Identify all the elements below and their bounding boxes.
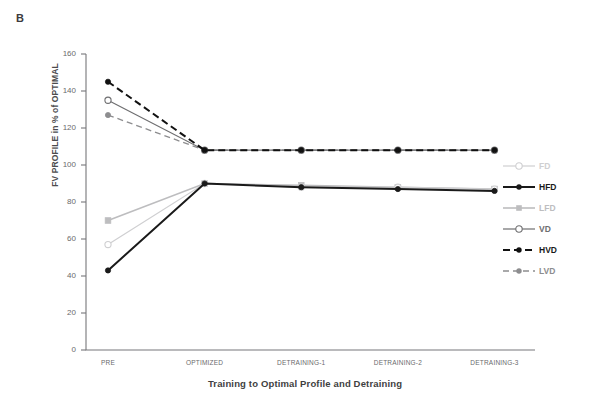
legend-label: FD	[536, 161, 550, 171]
legend-label: HVD	[536, 245, 557, 255]
legend-marker-filled-square	[502, 201, 536, 215]
data-point	[105, 218, 111, 224]
data-point	[395, 148, 400, 153]
legend-label: LVD	[536, 266, 555, 276]
y-axis-tick-label: 20	[36, 308, 76, 317]
legend-item-fd[interactable]: FD	[502, 155, 588, 176]
axis-spines	[86, 54, 535, 350]
x-axis-tick-label: DETRAINING-3	[435, 359, 555, 366]
legend-item-lfd[interactable]: LFD	[502, 197, 588, 218]
legend-marker-open-circle	[502, 222, 536, 236]
figure-panel: B FV PROFILE in % of OPTIMAL Training to…	[0, 0, 591, 403]
data-point	[105, 79, 110, 84]
series-hvd	[105, 79, 497, 153]
legend-label: VD	[536, 224, 551, 234]
series-line	[108, 184, 495, 271]
data-point	[105, 97, 111, 103]
series-vd	[105, 97, 498, 153]
legend-marker-open-circle	[502, 159, 536, 173]
data-point	[299, 148, 304, 153]
data-point	[105, 241, 111, 247]
data-point	[299, 185, 304, 190]
legend-marker-filled-circle	[502, 243, 536, 257]
series-line	[108, 82, 495, 150]
data-point	[492, 188, 497, 193]
legend-item-vd[interactable]: VD	[502, 218, 588, 239]
x-axis-title: Training to Optimal Profile and Detraini…	[80, 378, 530, 389]
y-axis-tick-label: 160	[36, 49, 76, 58]
y-axis-tick-label: 100	[36, 160, 76, 169]
legend-marker-filled-circle	[502, 180, 536, 194]
series-hfd	[105, 181, 497, 273]
legend-item-lvd[interactable]: LVD	[502, 260, 588, 281]
series-line	[108, 184, 495, 245]
legend-label: LFD	[536, 203, 556, 213]
y-axis-tick-label: 40	[36, 271, 76, 280]
legend-item-hvd[interactable]: HVD	[502, 239, 588, 260]
y-axis-tick-label: 0	[36, 345, 76, 354]
data-point	[202, 148, 207, 153]
data-point	[105, 268, 110, 273]
data-point	[395, 186, 400, 191]
y-axis-tick-label: 80	[36, 197, 76, 206]
legend-marker-filled-circle	[502, 264, 536, 278]
data-point	[202, 181, 207, 186]
legend-item-hfd[interactable]: HFD	[502, 176, 588, 197]
data-point	[105, 112, 110, 117]
y-axis-tick-label: 140	[36, 86, 76, 95]
legend-label: HFD	[536, 182, 556, 192]
y-axis-tick-label: 120	[36, 123, 76, 132]
series-line	[108, 115, 495, 150]
chart-legend: FDHFDLFDVDHVDLVD	[502, 155, 588, 281]
series-line	[108, 100, 495, 150]
y-axis-tick-label: 60	[36, 234, 76, 243]
data-point	[492, 148, 497, 153]
